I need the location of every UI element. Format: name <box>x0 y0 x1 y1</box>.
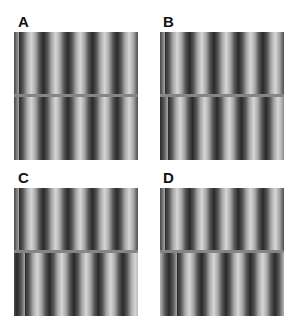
grating-panel-d <box>160 188 284 316</box>
grating-bottom-half <box>160 253 284 316</box>
grating-bottom-half <box>14 253 138 316</box>
grating-panel-a <box>14 32 138 160</box>
grating-panel-b <box>160 32 284 160</box>
panel-label-d: D <box>163 170 174 185</box>
panel-label-a: A <box>18 14 29 29</box>
grating-top-half <box>160 32 284 94</box>
grating-top-half <box>14 32 138 94</box>
panel-label-c: C <box>18 170 29 185</box>
grating-top-half <box>14 188 138 250</box>
grating-panel-c <box>14 188 138 316</box>
panel-label-b: B <box>163 14 174 29</box>
grating-top-half <box>160 188 284 250</box>
grating-bottom-half <box>14 97 138 160</box>
grating-bottom-half <box>160 97 284 160</box>
